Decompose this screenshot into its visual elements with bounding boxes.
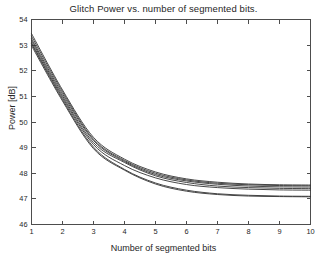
- y-tick-label: 47: [19, 194, 27, 203]
- y-tick-label: 50: [19, 118, 27, 127]
- y-tick-label: 48: [19, 169, 27, 178]
- x-tick-label: 9: [277, 227, 281, 236]
- y-axis-label: Power [dB]: [7, 68, 17, 148]
- x-tick-label: 2: [60, 227, 64, 236]
- x-tick-label: 1: [29, 227, 33, 236]
- x-tick-label: 6: [184, 227, 188, 236]
- line-chart-plot: 46474849505152535412345678910: [0, 0, 327, 263]
- x-tick-label: 8: [246, 227, 250, 236]
- y-tick-label: 54: [19, 15, 27, 24]
- series-line: [32, 39, 311, 187]
- series-line: [32, 46, 311, 197]
- y-tick-label: 53: [19, 41, 27, 50]
- y-tick-label: 52: [19, 66, 27, 75]
- series-line: [32, 44, 311, 196]
- x-axis-label: Number of segmented bits: [0, 243, 327, 253]
- series-line: [32, 41, 311, 189]
- chart-figure: Glitch Power vs. number of segmented bit…: [0, 0, 327, 263]
- x-tick-label: 5: [153, 227, 157, 236]
- x-tick-label: 4: [122, 227, 126, 236]
- series-line: [32, 43, 311, 191]
- x-tick-label: 3: [91, 227, 95, 236]
- y-tick-label: 51: [19, 92, 27, 101]
- y-tick-label: 46: [19, 220, 27, 229]
- x-tick-label: 10: [306, 227, 314, 236]
- y-tick-label: 49: [19, 143, 27, 152]
- x-tick-label: 7: [215, 227, 219, 236]
- plot-box-border: [32, 20, 311, 225]
